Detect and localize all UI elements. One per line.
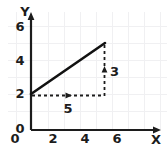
y-axis-label: Y [19,4,30,19]
x-tick-label: 0 [10,131,19,146]
run-annotation: 5 [32,93,104,116]
rise-annotation: 3 [102,44,119,96]
x-tick-label: 6 [112,131,121,146]
rise-label: 3 [110,64,119,79]
y-axis [28,12,35,130]
x-axis-label: X [151,132,161,147]
run-arrow-icon [66,93,73,99]
coordinate-slope-graph: Y X 6 4 2 0 0 2 4 6 5 3 [0,0,168,148]
rise-arrow-icon [102,66,108,73]
y-tick-label: 4 [15,53,24,68]
x-tick-label: 2 [48,131,57,146]
graph-canvas: Y X 6 4 2 0 0 2 4 6 5 3 [0,0,168,148]
y-tick-label: 6 [15,19,24,34]
y-tick-label: 2 [15,86,24,101]
x-tick-label: 4 [80,131,89,146]
run-label: 5 [63,101,72,116]
x-tick-labels: 0 2 4 6 [10,131,121,146]
slope-line [31,43,105,94]
